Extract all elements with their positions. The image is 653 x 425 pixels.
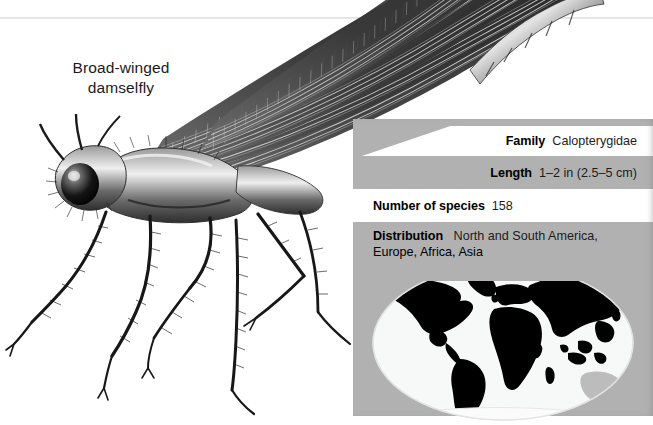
fact-label-distribution: Distribution <box>373 229 443 243</box>
fact-label-length: Length <box>490 166 532 180</box>
fact-value-family: Calopterygidae <box>552 134 637 148</box>
fact-value-number-of-species: 158 <box>492 199 513 213</box>
fact-value-length: 1–2 in (2.5–5 cm) <box>539 166 637 180</box>
figure-caption: Broad-winged damselfly <box>26 58 216 99</box>
fact-value-distribution-line1: North and South America, <box>454 229 598 243</box>
caption-line-2: damselfly <box>26 78 216 98</box>
fact-row-distribution: Distribution North and South America, Eu… <box>353 222 653 270</box>
fact-row-number-of-species: Number of species 158 <box>353 189 653 222</box>
distribution-line-1: Distribution North and South America, <box>373 228 653 244</box>
world-distribution-map <box>372 281 634 425</box>
caption-line-1: Broad-winged <box>26 58 216 78</box>
fact-label-family: Family <box>506 134 546 148</box>
fact-value-distribution-line2: Europe, Africa, Asia <box>373 244 653 260</box>
fact-row-length: Length 1–2 in (2.5–5 cm) <box>353 156 653 189</box>
fact-label-number-of-species: Number of species <box>373 199 485 213</box>
